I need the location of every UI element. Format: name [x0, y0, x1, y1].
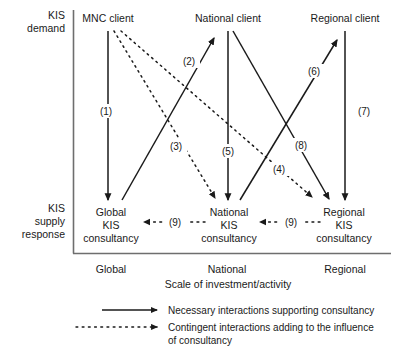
- kis-supply-label-line3: response: [22, 228, 65, 240]
- x-axis-title: Scale of investment/activity: [165, 278, 292, 290]
- node-national-client: National client: [195, 12, 261, 24]
- kis-demand-label-line1: KIS: [48, 9, 65, 21]
- kis-supply-label-line2: supply: [35, 215, 66, 227]
- kis-supply-label-line1: KIS: [48, 202, 65, 214]
- global-kis-line2: KIS: [103, 219, 120, 231]
- national-kis-line2: KIS: [221, 219, 238, 231]
- edge-2-global-to-national-client: [122, 38, 214, 200]
- y-axis-label-demand: KIS demand: [27, 9, 65, 34]
- x-tick-regional: Regional: [324, 263, 365, 275]
- kis-demand-label-line2: demand: [27, 22, 65, 34]
- regional-kis-line2: KIS: [336, 219, 353, 231]
- legend-dotted-text-line1: Contingent interactions adding to the in…: [168, 322, 374, 333]
- kis-demand-supply-diagram: KIS demand KIS supply response MNC clien…: [0, 0, 394, 352]
- y-axis-label-supply: KIS supply response: [22, 202, 66, 240]
- legend: Necessary interactions supporting consul…: [76, 305, 374, 346]
- national-kis-line3: consultancy: [201, 232, 257, 244]
- edge-label-6: (6): [308, 66, 320, 77]
- x-tick-national: National: [208, 263, 247, 275]
- edge-label-9a: (9): [169, 217, 181, 228]
- x-tick-global: Global: [96, 263, 126, 275]
- legend-dotted-text-line2: of consultancy: [168, 335, 232, 346]
- diagram-canvas: KIS demand KIS supply response MNC clien…: [0, 0, 394, 352]
- node-regional-client: Regional client: [311, 12, 380, 24]
- edge-label-4: (4): [273, 164, 285, 175]
- edge-label-1: (1): [100, 106, 112, 117]
- node-global-kis-consultancy: Global KIS consultancy: [83, 206, 139, 244]
- edge-label-7: (7): [358, 106, 370, 117]
- node-mnc-client: MNC client: [82, 12, 133, 24]
- node-regional-kis-consultancy: Regional KIS consultancy: [316, 206, 372, 244]
- edge-label-2: (2): [183, 56, 195, 67]
- edge-label-9b: (9): [285, 217, 297, 228]
- regional-kis-line3: consultancy: [316, 232, 372, 244]
- global-kis-line3: consultancy: [83, 232, 139, 244]
- legend-item-dotted: Contingent interactions adding to the in…: [76, 322, 374, 346]
- legend-item-solid: Necessary interactions supporting consul…: [102, 305, 374, 316]
- edge-label-5: (5): [222, 146, 234, 157]
- legend-solid-text: Necessary interactions supporting consul…: [168, 305, 374, 316]
- national-kis-line1: National: [210, 206, 249, 218]
- global-kis-line1: Global: [96, 206, 126, 218]
- edge-label-3: (3): [170, 141, 182, 152]
- edge-label-8: (8): [295, 140, 307, 151]
- node-national-kis-consultancy: National KIS consultancy: [201, 206, 257, 244]
- regional-kis-line1: Regional: [323, 206, 364, 218]
